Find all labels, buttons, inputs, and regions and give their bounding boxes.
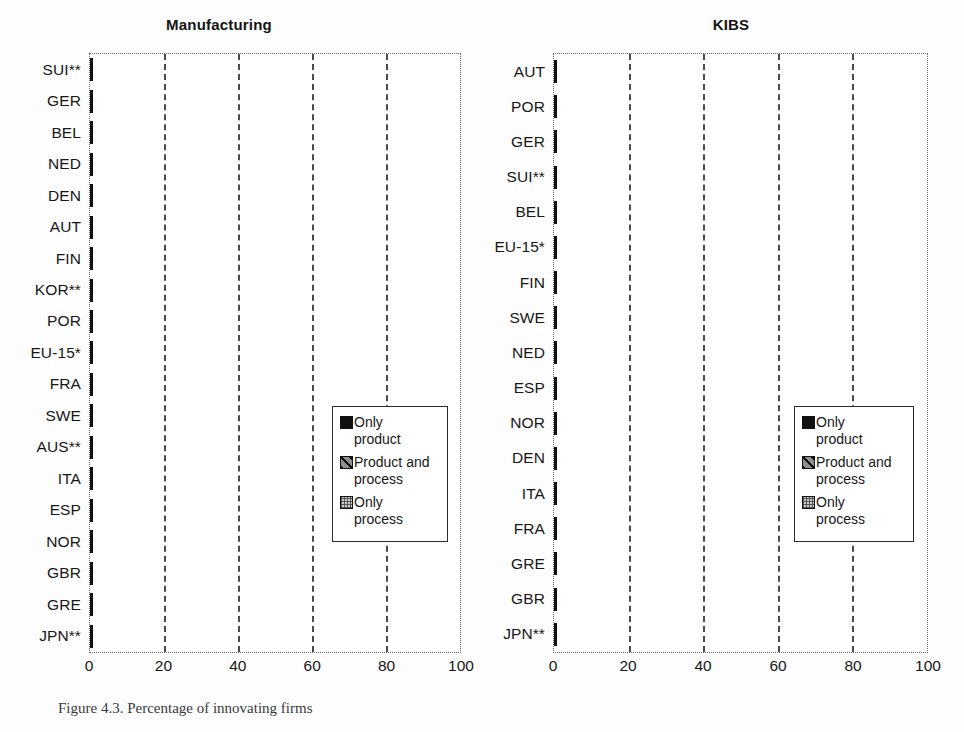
bar-row: SUI**: [90, 58, 460, 81]
gridline-40: [703, 54, 705, 652]
category-label: ITA: [522, 485, 545, 503]
bar-row: ESP: [554, 377, 927, 400]
stacked-bar: [554, 588, 557, 611]
bar-segment-only-process: [555, 412, 557, 435]
bar-segment-only-process: [91, 467, 93, 490]
x-tick-label: 20: [619, 657, 636, 675]
category-label: POR: [47, 312, 81, 330]
x-tick-label: 80: [844, 657, 861, 675]
stacked-bar: [90, 279, 93, 302]
bar-row: GBR: [554, 588, 927, 611]
bar-row: AUT: [90, 216, 460, 239]
category-label: GBR: [47, 564, 81, 582]
category-label: FRA: [50, 375, 81, 393]
category-label: BEL: [515, 203, 545, 221]
bar-segment-only-process: [91, 247, 93, 270]
x-tick-label: 80: [378, 657, 395, 675]
category-label: FIN: [56, 250, 81, 268]
bar-row: GBR: [90, 562, 460, 585]
bar-row: EU-15*: [554, 236, 927, 259]
bar-segment-only-process: [555, 552, 557, 575]
bar-rows-kibs: AUTPORGERSUI**BELEU-15*FINSWENEDESPNORDE…: [554, 54, 927, 652]
bar-segment-only-process: [555, 482, 557, 505]
bar-segment-only-process: [91, 499, 93, 522]
bar-row: SUI**: [554, 166, 927, 189]
category-label: EU-15*: [494, 238, 545, 256]
x-axis-manufacturing: 020406080100: [89, 657, 461, 683]
gridline-60: [312, 54, 314, 652]
gridline-20: [629, 54, 631, 652]
category-label: SUI**: [43, 61, 81, 79]
plot-area-manufacturing: SUI**GERBELNEDDENAUTFINKOR**POREU-15*FRA…: [89, 53, 461, 653]
bar-segment-only-process: [91, 404, 93, 427]
stacked-bar: [90, 247, 93, 270]
legend-item-only-process: Only process: [802, 494, 905, 527]
bar-row: BEL: [554, 201, 927, 224]
bar-row: GER: [90, 90, 460, 113]
stacked-bar: [554, 60, 557, 83]
legend-kibs: Only product Product and process Only pr…: [794, 406, 914, 542]
gridline-20: [164, 54, 166, 652]
bar-segment-only-process: [555, 623, 557, 646]
legend-swatch-only-process: [340, 496, 353, 509]
stacked-bar: [554, 517, 557, 540]
bar-segment-only-process: [91, 279, 93, 302]
bar-segment-only-process: [555, 236, 557, 259]
legend-swatch-product-and-process: [340, 456, 353, 469]
stacked-bar: [554, 552, 557, 575]
chart-title-manufacturing: Manufacturing: [0, 16, 460, 33]
category-label: NED: [512, 344, 545, 362]
bar-segment-only-process: [91, 310, 93, 333]
bar-segment-only-process: [91, 593, 93, 616]
category-label: JPN**: [503, 625, 545, 643]
stacked-bar: [554, 623, 557, 646]
bar-row: JPN**: [90, 625, 460, 648]
stacked-bar: [90, 562, 93, 585]
bar-segment-only-process: [91, 58, 93, 81]
bar-row: GER: [554, 130, 927, 153]
category-label: FIN: [520, 274, 545, 292]
category-label: KOR**: [35, 281, 81, 299]
legend-label-product-and-process: Product and process: [816, 454, 892, 487]
stacked-bar: [90, 90, 93, 113]
category-label: DEN: [48, 187, 81, 205]
x-axis-kibs: 020406080100: [553, 657, 928, 683]
bar-row: FIN: [554, 271, 927, 294]
stacked-bar: [90, 625, 93, 648]
bar-row: GRE: [554, 552, 927, 575]
bar-segment-only-process: [91, 373, 93, 396]
category-label: AUS**: [37, 438, 81, 456]
stacked-bar: [554, 377, 557, 400]
bar-row: GRE: [90, 593, 460, 616]
gridline-60: [778, 54, 780, 652]
category-label: GRE: [511, 555, 545, 573]
legend-item-product-and-process: Product and process: [802, 454, 905, 487]
category-label: SWE: [509, 309, 545, 327]
bar-segment-only-process: [91, 216, 93, 239]
bar-row: JPN**: [554, 623, 927, 646]
legend-label-only-process: Only process: [816, 494, 865, 527]
category-label: POR: [511, 98, 545, 116]
bar-row: DEN: [90, 184, 460, 207]
bar-segment-only-process: [91, 153, 93, 176]
stacked-bar: [554, 482, 557, 505]
x-tick-label: 0: [85, 657, 94, 675]
plot-area-kibs: AUTPORGERSUI**BELEU-15*FINSWENEDESPNORDE…: [553, 53, 928, 653]
bar-segment-only-process: [555, 130, 557, 153]
bar-segment-only-process: [91, 436, 93, 459]
chart-panel-manufacturing: Manufacturing SUI**GERBELNEDDENAUTFINKOR…: [0, 0, 482, 732]
bar-segment-only-process: [555, 306, 557, 329]
bar-row: FIN: [90, 247, 460, 270]
category-label: AUT: [514, 63, 545, 81]
stacked-bar: [554, 271, 557, 294]
bar-row: NED: [554, 341, 927, 364]
legend-label-only-process: Only process: [354, 494, 403, 527]
legend-swatch-only-process: [802, 496, 815, 509]
bar-segment-only-process: [91, 90, 93, 113]
x-tick-label: 40: [229, 657, 246, 675]
category-label: ESP: [514, 379, 545, 397]
stacked-bar: [90, 467, 93, 490]
stacked-bar: [554, 412, 557, 435]
figure-caption: Figure 4.3. Percentage of innovating fir…: [58, 700, 313, 717]
x-tick-label: 100: [448, 657, 474, 675]
